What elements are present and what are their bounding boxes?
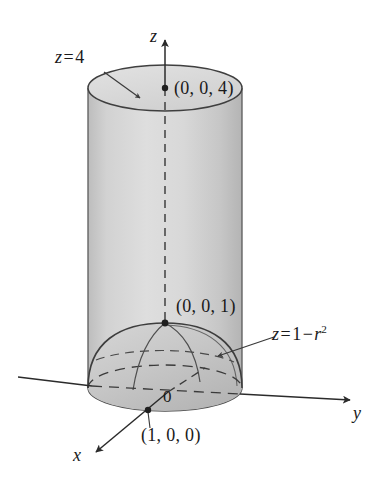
paraboloid-exponent: 2 (321, 323, 327, 335)
figure-canvas (0, 0, 378, 493)
point-label-0-0-1: (0, 0, 1) (176, 297, 236, 315)
z-axis-label: z (150, 27, 157, 45)
math-figure-3d-solid: z y x 0 z=4 z=1−r2 (0, 0, 4) (0, 0, 1) (… (0, 0, 378, 493)
point-dot-0-0-1 (162, 320, 169, 327)
x-axis-label: x (73, 446, 81, 464)
origin-label: 0 (163, 388, 172, 405)
plane-z4-equals: = (62, 47, 75, 67)
y-axis-label: y (353, 404, 361, 422)
paraboloid-equation-label: z=1−r2 (272, 325, 327, 343)
point-label-0-0-4: (0, 0, 4) (174, 79, 234, 97)
paraboloid-variable: z (272, 324, 279, 344)
paraboloid-equals: = (279, 324, 292, 344)
y-axis-negative-segment (18, 377, 92, 386)
point-dot-0-0-4 (162, 85, 168, 91)
point-label-1-0-0: (1, 0, 0) (141, 426, 201, 444)
point-dot-1-0-0 (145, 407, 151, 413)
paraboloid-constant: 1 (292, 324, 301, 344)
plane-z4-variable: z (55, 47, 62, 67)
paraboloid-minus: − (301, 324, 314, 344)
plane-z4-label: z=4 (55, 48, 84, 66)
y-axis-arrow (240, 394, 350, 400)
plane-z4-value: 4 (75, 47, 84, 67)
